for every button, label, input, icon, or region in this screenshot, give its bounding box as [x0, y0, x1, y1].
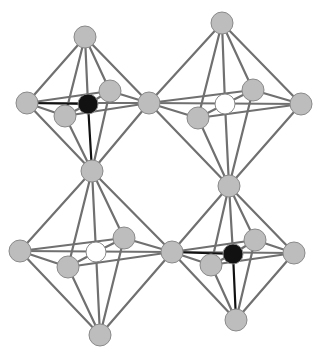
ligand-atom-front	[57, 256, 79, 278]
octahedron-edge	[149, 90, 253, 103]
center-atom-dark	[223, 244, 243, 264]
ligand-atom	[225, 309, 247, 331]
atoms-layer	[9, 12, 312, 346]
ligand-atom	[138, 92, 160, 114]
ligand-atom-front	[54, 105, 76, 127]
ligand-atom	[218, 175, 240, 197]
ligand-atom	[16, 92, 38, 114]
ligand-atom	[113, 227, 135, 249]
bonds-layer	[20, 23, 301, 335]
center-bond	[92, 171, 96, 252]
ligand-atom	[74, 26, 96, 48]
ligand-atom	[89, 324, 111, 346]
center-bond	[222, 23, 225, 104]
ligand-atom	[244, 229, 266, 251]
ligand-atom	[9, 240, 31, 262]
crystal-structure-diagram: Corner-sharing octahedra crystal structu…	[0, 0, 323, 356]
center-atom-dark	[78, 94, 98, 114]
ligand-atom-front	[200, 254, 222, 276]
center-bond	[96, 252, 100, 335]
octahedra-canvas	[0, 0, 323, 356]
ligand-atom	[242, 79, 264, 101]
center-bond	[225, 104, 229, 186]
center-atom-light	[86, 242, 106, 262]
ligand-atom	[283, 242, 305, 264]
ligand-atom	[290, 93, 312, 115]
ligand-atom	[161, 241, 183, 263]
ligand-atom	[211, 12, 233, 34]
center-atom-light	[215, 94, 235, 114]
ligand-atom	[81, 160, 103, 182]
ligand-atom-front	[187, 107, 209, 129]
ligand-atom	[99, 80, 121, 102]
